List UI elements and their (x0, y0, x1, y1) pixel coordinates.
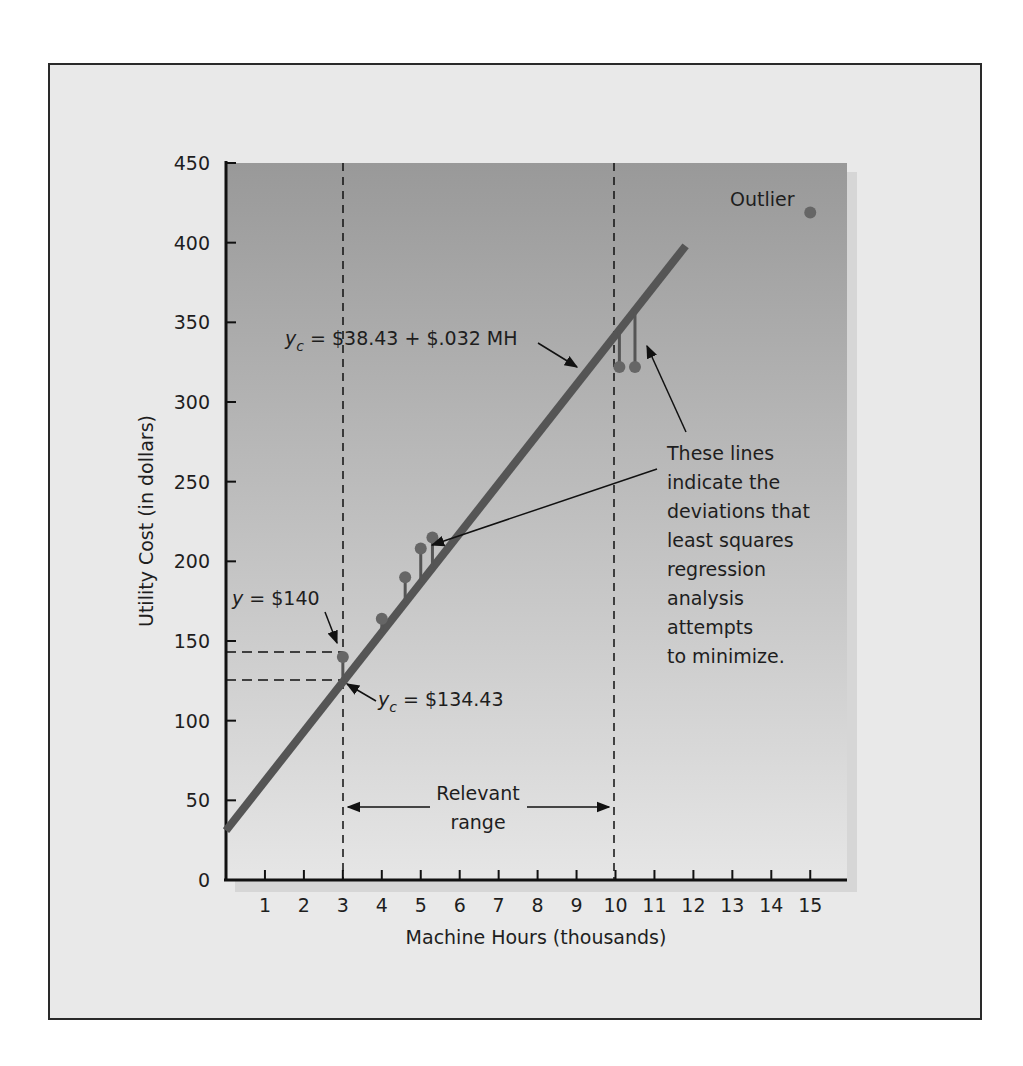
deviation-note-line: regression (667, 558, 766, 580)
deviation-note-line: to minimize. (667, 645, 785, 667)
y-tick-label: 400 (174, 232, 210, 254)
y-tick-label: 350 (174, 311, 210, 333)
y-actual-label: y = $140 (231, 587, 320, 609)
x-tick-label: 14 (759, 894, 783, 916)
x-tick-label: 1 (259, 894, 271, 916)
y-tick-label: 150 (174, 630, 210, 652)
data-point (399, 571, 411, 583)
y-tick-label: 300 (174, 391, 210, 413)
data-point (415, 543, 427, 555)
x-tick-label: 6 (454, 894, 466, 916)
x-tick-label: 5 (415, 894, 427, 916)
x-tick-label: 15 (798, 894, 822, 916)
data-point (629, 361, 641, 373)
data-point (337, 651, 349, 663)
x-tick-label: 9 (571, 894, 583, 916)
y-tick-label: 100 (174, 710, 210, 732)
y-tick-label: 200 (174, 550, 210, 572)
x-tick-label: 10 (603, 894, 627, 916)
x-tick-label: 12 (681, 894, 705, 916)
y-axis-title: Utility Cost (in dollars) (135, 415, 157, 627)
y-tick-label: 450 (174, 152, 210, 174)
regression-chart: 050100150200250300350400450 123456789101… (0, 0, 1023, 1066)
data-point (376, 613, 388, 625)
y-tick-label: 50 (186, 789, 210, 811)
x-tick-label: 8 (532, 894, 544, 916)
deviation-note-line: least squares (667, 529, 794, 551)
x-tick-label: 11 (642, 894, 666, 916)
x-tick-label: 7 (493, 894, 505, 916)
deviation-note-line: attempts (667, 616, 753, 638)
deviation-note-line: analysis (667, 587, 744, 609)
data-point (426, 531, 438, 543)
outlier-label: Outlier (730, 188, 795, 210)
y-tick-label: 0 (198, 869, 210, 891)
deviation-note-line: These lines (666, 442, 774, 464)
relevant-range-label-line2: range (450, 811, 505, 833)
relevant-range-label-line1: Relevant (436, 782, 519, 804)
x-tick-label: 2 (298, 894, 310, 916)
x-tick-label: 13 (720, 894, 744, 916)
deviation-note-line: deviations that (667, 500, 810, 522)
y-tick-label: 250 (174, 471, 210, 493)
outlier-point (804, 206, 816, 218)
deviation-note-line: indicate the (667, 471, 780, 493)
data-point (613, 361, 625, 373)
x-tick-label: 3 (337, 894, 349, 916)
x-axis-title: Machine Hours (thousands) (406, 926, 667, 948)
x-tick-label: 4 (376, 894, 388, 916)
